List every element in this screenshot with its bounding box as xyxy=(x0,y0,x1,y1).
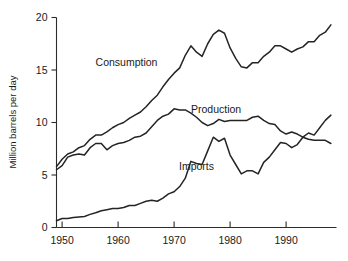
plot-axes xyxy=(57,18,337,228)
chart-container: 05101520 19501960197019801990 Consumptio… xyxy=(0,0,348,261)
y-axis-title: Million barrels per day xyxy=(7,75,18,168)
y-tick-label: 10 xyxy=(36,116,48,128)
x-tick-label: 1960 xyxy=(106,234,130,246)
series-annotation-imports: Imports xyxy=(179,160,214,172)
y-tick-label: 5 xyxy=(42,169,48,181)
series-annotation-consumption: Consumption xyxy=(96,56,158,68)
y-tick-label: 20 xyxy=(36,11,48,23)
y-axis-ticks: 05101520 xyxy=(36,11,57,233)
y-tick-label: 15 xyxy=(36,64,48,76)
x-axis-ticks: 19501960197019801990 xyxy=(50,222,298,246)
x-tick-label: 1950 xyxy=(50,234,74,246)
data-series-group xyxy=(57,25,331,221)
series-annotation-production: Production xyxy=(191,103,241,115)
x-tick-label: 1980 xyxy=(218,234,242,246)
y-tick-label: 0 xyxy=(42,221,48,233)
x-tick-label: 1990 xyxy=(274,234,298,246)
x-tick-label: 1970 xyxy=(162,234,186,246)
oil-trends-line-chart: 05101520 19501960197019801990 Consumptio… xyxy=(0,0,348,261)
